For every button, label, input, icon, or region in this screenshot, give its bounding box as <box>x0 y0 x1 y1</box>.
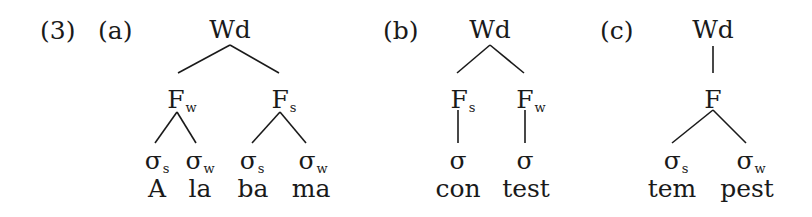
word-segment: ba <box>238 176 269 201</box>
example-number: (3) <box>40 18 75 43</box>
word-segment: la <box>189 176 212 201</box>
word-segment: pest <box>720 176 774 201</box>
tree-label: (a) <box>98 18 132 43</box>
syllable-node: σs <box>240 148 265 175</box>
foot-node: Fs <box>271 87 296 114</box>
foot-node: Fs <box>450 87 475 114</box>
word-segment: tem <box>648 176 697 201</box>
syllable-node: σs <box>664 148 689 175</box>
foot-node: Fw <box>516 87 546 114</box>
syllable-node: σs <box>145 148 170 175</box>
word-segment: test <box>502 176 550 201</box>
word-segment: con <box>435 176 480 201</box>
syllable-node: σ <box>516 148 533 173</box>
syllable-node: σw <box>185 148 214 175</box>
syllable-node: σ <box>449 148 466 173</box>
syllable-node: σw <box>298 148 327 175</box>
foot-node: Fw <box>167 87 197 114</box>
tree-label: (c) <box>600 18 634 43</box>
syllable-node: σw <box>736 148 765 175</box>
word-segment: A <box>148 176 166 201</box>
root-node: Wd <box>469 17 511 42</box>
foot-node: F <box>704 87 721 112</box>
word-segment: ma <box>292 176 331 201</box>
root-node: Wd <box>209 17 251 42</box>
tree-label: (b) <box>383 18 419 43</box>
root-node: Wd <box>692 17 734 42</box>
